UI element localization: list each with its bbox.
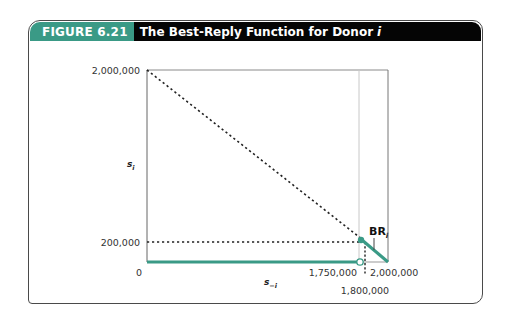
y-tick-2000000: 2,000,000 <box>92 65 140 76</box>
filled-endpoint <box>358 237 364 243</box>
origin-label: 0 <box>136 267 142 278</box>
y-axis-label: si <box>127 159 135 172</box>
x-tick-1800000: 1,800,000 <box>341 285 389 296</box>
open-endpoint <box>357 259 363 265</box>
x-tick-1750000: 1,750,000 <box>309 267 357 278</box>
br-declining-segment <box>362 240 388 262</box>
dotted-diagonal <box>147 70 363 240</box>
y-tick-200000: 200,000 <box>101 237 140 248</box>
chart-plot: 2,000,000 200,000 0 1,750,000 1,800,000 … <box>0 0 508 323</box>
x-tick-2000000: 2,000,000 <box>370 267 418 278</box>
br-curve-label: BRi <box>369 225 389 240</box>
x-axis-label: s−i <box>264 277 278 290</box>
